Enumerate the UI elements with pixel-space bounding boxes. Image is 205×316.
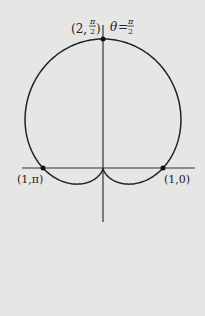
label-left-point: (1,π) [17,173,43,186]
svg-text:π: π [89,17,96,26]
point-left [41,166,46,171]
point-top [101,37,106,42]
svg-text:θ: θ [110,20,118,34]
label-top-point: (2, π 2 ) [71,17,101,36]
svg-text:(2,: (2, [71,22,87,36]
point-right [161,166,166,171]
label-axis-angle: θ = π 2 [110,17,134,36]
cardioid-diagram: (2, π 2 ) θ = π 2 (1,π) (1,0) [0,0,205,316]
svg-text:): ) [96,22,101,36]
svg-text:=: = [118,20,128,34]
svg-text:π: π [127,17,134,26]
label-right-point: (1,0) [164,173,190,186]
svg-text:2: 2 [90,27,95,36]
svg-text:2: 2 [128,27,133,36]
